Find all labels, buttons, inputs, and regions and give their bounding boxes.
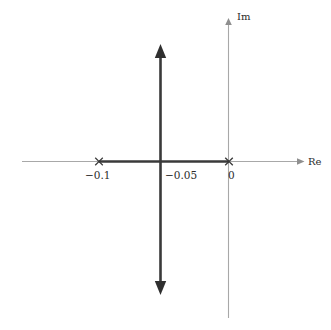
- imaginary-axis-label: Im: [237, 12, 250, 22]
- arrow-up-icon: [225, 18, 232, 25]
- real-axis-label: Re: [308, 157, 321, 167]
- arrow-down-icon: [155, 281, 166, 295]
- tick-label-neg-0-05: −0.05: [165, 170, 197, 181]
- tick-label-zero: 0: [228, 170, 235, 181]
- arrow-right-icon: [297, 158, 305, 165]
- complex-plane-plot: [0, 0, 331, 330]
- imaginary-axis: [225, 18, 232, 318]
- arrow-up-icon: [155, 44, 166, 58]
- tick-label-neg-0-1: −0.1: [85, 170, 111, 181]
- root-locus-figure: Im Re −0.1 −0.05 0: [0, 0, 331, 330]
